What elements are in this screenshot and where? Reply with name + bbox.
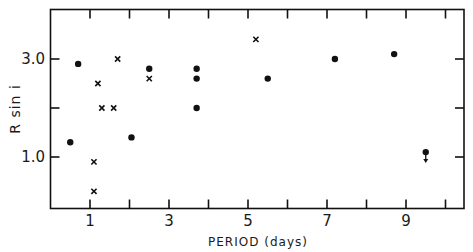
dot-marker <box>193 105 199 111</box>
x-tick-label: 3 <box>164 212 174 230</box>
x-tick-label: 7 <box>322 212 332 230</box>
dot-marker <box>391 51 397 57</box>
x-tick-label: 9 <box>401 212 411 230</box>
cross-marker <box>115 56 120 61</box>
cross-marker <box>253 37 258 42</box>
dot-marker <box>193 75 199 81</box>
dot-marker <box>423 149 429 155</box>
dot-marker <box>67 139 73 145</box>
y-tick-label: 1.0 <box>21 148 45 166</box>
cross-marker <box>95 81 100 86</box>
dot-marker <box>265 75 271 81</box>
dot-marker <box>128 134 134 140</box>
x-tick-label: 1 <box>85 212 95 230</box>
dot-marker <box>193 66 199 72</box>
dot-marker <box>146 66 152 72</box>
y-tick-label: 3.0 <box>21 50 45 68</box>
x-tick-label: 5 <box>243 212 253 230</box>
dot-marker <box>332 56 338 62</box>
y-axis-title: R sin i <box>7 84 23 134</box>
cross-marker <box>147 76 152 81</box>
cross-marker <box>91 159 96 164</box>
data-points <box>67 37 429 194</box>
arrow-down-icon <box>423 159 428 163</box>
cross-marker <box>91 189 96 194</box>
tick-labels: 135791.03.0 <box>21 50 411 230</box>
scatter-chart: 135791.03.0 PERIOD (days) R sin i <box>0 0 473 252</box>
cross-marker <box>111 105 116 110</box>
dot-marker <box>75 61 81 67</box>
x-axis-title: PERIOD (days) <box>208 235 308 249</box>
cross-marker <box>99 105 104 110</box>
